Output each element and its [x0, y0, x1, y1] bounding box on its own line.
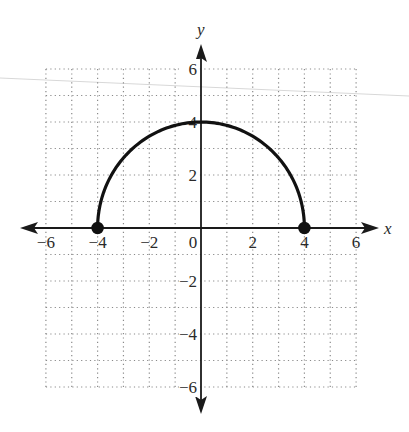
- y-tick-label: −4: [179, 325, 198, 344]
- x-tick-label: −4: [89, 233, 108, 252]
- endpoint-dot: [299, 223, 310, 234]
- axes: [20, 44, 379, 414]
- y-tick-label: −6: [179, 378, 197, 397]
- scan-artifact-line: [0, 78, 409, 96]
- y-tick-label: 2: [189, 166, 198, 185]
- semicircle-chart: −6−4−20246−6−4−2246 x y: [0, 0, 409, 432]
- x-tick-label: 4: [300, 233, 309, 252]
- x-tick-label: 0: [189, 233, 198, 252]
- y-tick-label: 6: [189, 60, 198, 79]
- y-tick-label: −2: [179, 272, 197, 291]
- x-tick-label: 2: [248, 233, 257, 252]
- x-axis-label: x: [383, 219, 392, 238]
- endpoint-dot: [92, 223, 103, 234]
- x-tick-label: −2: [140, 233, 158, 252]
- x-tick-label: 6: [352, 233, 361, 252]
- y-axis-label: y: [195, 20, 205, 39]
- x-tick-label: −6: [37, 233, 55, 252]
